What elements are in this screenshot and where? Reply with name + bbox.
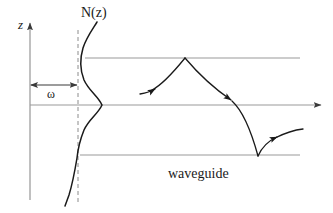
ray-segment-outgoing xyxy=(275,129,303,138)
ray-segment-up-from-bottom xyxy=(258,137,277,156)
index-profile-label: N(z) xyxy=(81,6,107,20)
ray-segment-up-to-top-turning-point xyxy=(152,58,185,90)
index-profile-curve xyxy=(65,22,102,206)
z-axis-label: z xyxy=(18,18,23,31)
diagram-canvas xyxy=(0,0,333,213)
waveguide-region-label: waveguide xyxy=(168,167,229,181)
ray-segment-down-through-centre xyxy=(185,58,231,100)
omega-width-label: ω xyxy=(47,88,55,100)
ray-segment-down-to-bottom-turning-point xyxy=(232,101,258,156)
waveguide-ray-diagram: z N(z) ω waveguide xyxy=(0,0,333,213)
